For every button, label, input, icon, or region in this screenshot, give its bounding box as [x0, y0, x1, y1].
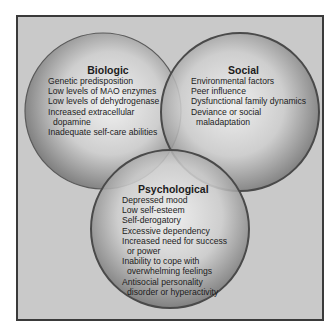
list-item: Environmental factors — [191, 76, 316, 86]
list-item-continuation: maladaptation — [191, 117, 316, 127]
list-item: Low levels of MAO enzymes — [48, 86, 158, 96]
list-item-continuation: dopamine — [48, 117, 158, 127]
list-item: Inability to cope with overwhelming feel… — [122, 256, 242, 276]
list-item: Antisocial personality disorder or hyper… — [122, 277, 242, 297]
list-item: Peer influence — [191, 86, 316, 96]
biologic-title: Biologic — [48, 64, 158, 76]
list-item: Excessive dependency — [122, 226, 242, 236]
list-item-line: Increased extracellular — [48, 107, 134, 117]
list-item: Low self-esteem — [122, 205, 242, 215]
psychological-label-block: Psychological Depressed mood Low self-es… — [122, 183, 242, 297]
list-item: Increased extracellular dopamine — [48, 107, 158, 127]
list-item: Self-derogatory — [122, 215, 242, 225]
list-item: Low levels of dehydrogenase — [48, 96, 158, 106]
list-item: Genetic predisposition — [48, 76, 158, 86]
list-item-continuation: or power — [122, 246, 242, 256]
list-item-continuation: overwhelming feelings — [122, 266, 242, 276]
list-item-continuation: disorder or hyperactivity — [122, 287, 242, 297]
list-item-line: Deviance or social — [191, 107, 261, 117]
list-item: Increased need for success or power — [122, 236, 242, 256]
list-item: Inadequate self-care abilities — [48, 127, 158, 137]
social-label-block: Social Environmental factors Peer influe… — [191, 64, 316, 127]
biologic-label-block: Biologic Genetic predisposition Low leve… — [48, 64, 158, 137]
social-title: Social — [191, 64, 316, 76]
list-item: Dysfunctional family dynamics — [191, 96, 316, 106]
list-item: Depressed mood — [122, 195, 242, 205]
list-item: Deviance or social maladaptation — [191, 107, 316, 127]
list-item-line: Antisocial personality — [122, 277, 203, 287]
psychological-title: Psychological — [122, 183, 242, 195]
list-item-line: Inability to cope with — [122, 256, 199, 266]
list-item-line: Increased need for success — [122, 236, 227, 246]
